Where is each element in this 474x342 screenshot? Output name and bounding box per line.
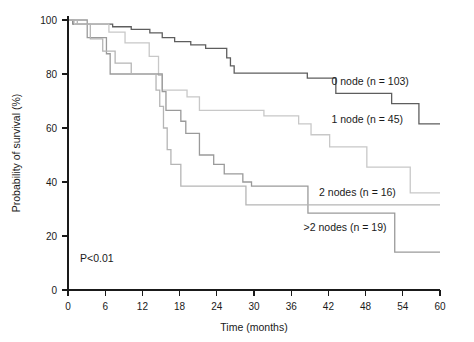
p-value-annotation: P<0.01 <box>80 252 114 264</box>
series-layer <box>68 20 440 252</box>
y-tick-label: 80 <box>46 69 58 80</box>
survival-curve-3 <box>68 20 440 252</box>
ticks-layer: 06121824303642485460020406080100 <box>40 15 446 313</box>
series-label-2: 1 node (n = 45) <box>332 113 404 125</box>
x-tick-label: 0 <box>65 301 71 312</box>
series-label-4: >2 nodes (n = 19) <box>304 221 387 233</box>
y-tick-label: 40 <box>46 177 58 188</box>
y-tick-label: 60 <box>46 123 58 134</box>
x-tick-label: 60 <box>434 301 446 312</box>
survival-curve-1 <box>68 20 440 124</box>
y-tick-label: 100 <box>40 15 57 26</box>
x-tick-label: 12 <box>137 301 149 312</box>
x-tick-label: 6 <box>102 301 108 312</box>
y-axis-title: Probability of survival (%) <box>10 94 22 212</box>
survival-chart: 06121824303642485460020406080100 0 node … <box>0 0 474 342</box>
labels-layer: 0 node (n = 103)1 node (n = 45)2 nodes (… <box>304 75 409 233</box>
survival-curve-2 <box>68 20 440 193</box>
x-tick-label: 24 <box>211 301 223 312</box>
x-tick-label: 30 <box>248 301 260 312</box>
x-tick-label: 36 <box>286 301 298 312</box>
km-plot-svg: 06121824303642485460020406080100 0 node … <box>0 0 474 342</box>
x-tick-label: 48 <box>360 301 372 312</box>
series-label-3: 2 nodes (n = 16) <box>319 186 396 198</box>
y-tick-label: 0 <box>51 285 57 296</box>
x-axis-title: Time (months) <box>220 321 287 333</box>
series-label-1: 0 node (n = 103) <box>332 75 409 87</box>
x-tick-label: 54 <box>397 301 409 312</box>
x-tick-label: 42 <box>323 301 335 312</box>
y-tick-label: 20 <box>46 231 58 242</box>
x-tick-label: 18 <box>174 301 186 312</box>
axes-layer <box>68 16 440 290</box>
